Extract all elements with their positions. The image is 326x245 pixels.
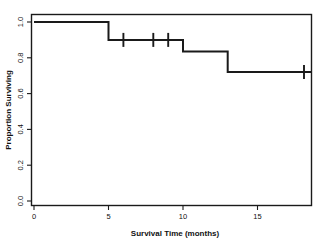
x-tick-label-3: 15 bbox=[253, 212, 261, 221]
y-axis-tick-labels: 0.0 0.2 0.4 0.6 0.8 1.0 bbox=[16, 17, 25, 206]
x-tick-label-0: 0 bbox=[32, 212, 36, 221]
y-tick-label-2: 0.4 bbox=[16, 124, 25, 134]
y-axis-title: Proportion Surviving bbox=[4, 70, 13, 150]
km-survival-curve bbox=[34, 22, 312, 72]
x-axis-title: Survival Time (months) bbox=[131, 229, 220, 238]
y-tick-label-5: 1.0 bbox=[16, 17, 25, 27]
y-tick-label-1: 0.2 bbox=[16, 160, 25, 170]
plot-frame bbox=[32, 15, 312, 206]
x-tick-label-2: 10 bbox=[179, 212, 187, 221]
plot-canvas: 0.0 0.2 0.4 0.6 0.8 1.0 0 5 10 15 Surviv… bbox=[0, 0, 326, 245]
y-tick-label-4: 0.8 bbox=[16, 53, 25, 63]
survival-chart-figure: 0.0 0.2 0.4 0.6 0.8 1.0 0 5 10 15 Surviv… bbox=[0, 0, 326, 245]
y-tick-label-3: 0.6 bbox=[16, 88, 25, 98]
x-tick-label-1: 5 bbox=[106, 212, 110, 221]
y-tick-label-0: 0.0 bbox=[16, 196, 25, 206]
x-axis-tick-labels: 0 5 10 15 bbox=[32, 212, 262, 221]
